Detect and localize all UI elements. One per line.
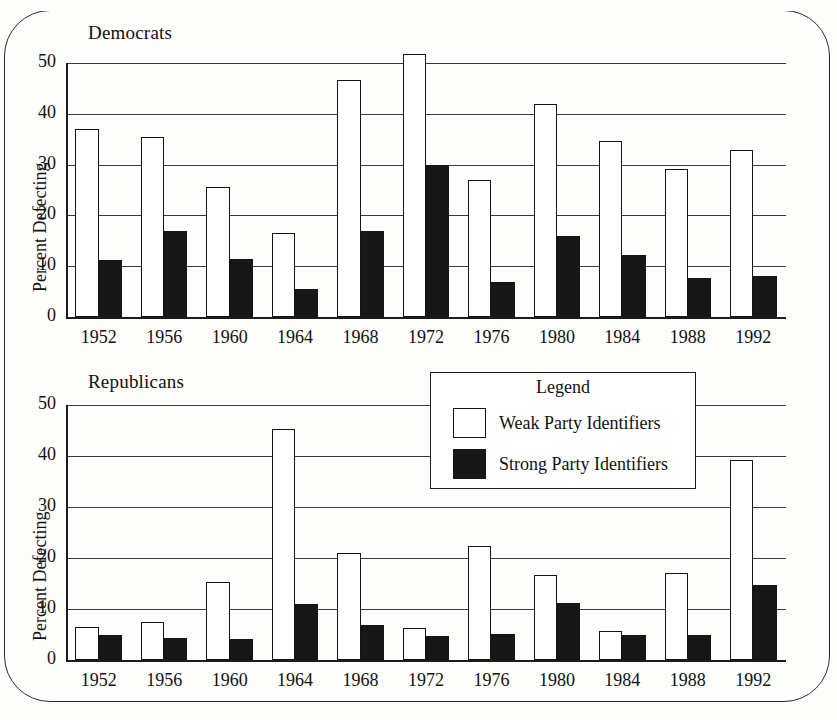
y-tick-10: 10 xyxy=(16,597,56,618)
x-tick-1980: 1980 xyxy=(524,327,589,348)
bar-strong-1972 xyxy=(426,165,449,317)
white-square-icon xyxy=(453,408,486,438)
bar-strong-1976 xyxy=(491,634,514,660)
x-tick-1964: 1964 xyxy=(262,670,327,691)
bar-strong-1964 xyxy=(295,289,318,317)
x-tick-1960: 1960 xyxy=(197,670,262,691)
scanned-page: Democrats Percent Defecting 010203040501… xyxy=(0,0,837,720)
bar-weak-1984 xyxy=(599,141,622,317)
legend-item-weak-label: Weak Party Identifiers xyxy=(499,413,661,434)
bar-strong-1956 xyxy=(164,231,187,317)
bar-weak-1964 xyxy=(272,233,295,317)
y-tick-50: 50 xyxy=(16,393,56,414)
y-tick-20: 20 xyxy=(16,203,56,224)
democrats-chart-title: Democrats xyxy=(88,22,172,44)
y-axis-line xyxy=(66,405,68,661)
bar-weak-1956 xyxy=(141,137,164,317)
bar-strong-1988 xyxy=(688,635,711,660)
bar-strong-1968 xyxy=(361,625,384,660)
bar-weak-1952 xyxy=(75,129,98,317)
y-tick-40: 40 xyxy=(16,102,56,123)
legend-item-strong: Strong Party Identifiers xyxy=(453,449,668,479)
legend-item-strong-label: Strong Party Identifiers xyxy=(499,454,668,475)
bar-strong-1992 xyxy=(753,276,776,317)
bar-weak-1992 xyxy=(730,150,753,317)
gridline-20 xyxy=(66,558,786,559)
x-tick-1956: 1956 xyxy=(131,670,196,691)
x-tick-1968: 1968 xyxy=(328,670,393,691)
x-tick-1988: 1988 xyxy=(655,327,720,348)
democrats-plot-area: 0102030405019521956196019641968197219761… xyxy=(66,63,786,317)
bar-strong-1980 xyxy=(557,603,580,660)
bar-strong-1960 xyxy=(230,639,253,660)
y-tick-0: 0 xyxy=(16,305,56,326)
y-tick-0: 0 xyxy=(16,648,56,669)
bar-strong-1952 xyxy=(99,260,122,317)
x-tick-1960: 1960 xyxy=(197,327,262,348)
gridline-30 xyxy=(66,507,786,508)
republicans-chart-title: Republicans xyxy=(88,371,184,393)
bar-strong-1960 xyxy=(230,259,253,317)
y-tick-30: 30 xyxy=(16,495,56,516)
x-tick-1980: 1980 xyxy=(524,670,589,691)
bar-weak-1988 xyxy=(665,169,688,317)
y-axis-line xyxy=(66,63,68,318)
x-tick-1972: 1972 xyxy=(393,327,458,348)
bar-weak-1976 xyxy=(468,546,491,660)
democrats-chart-panel: Democrats Percent Defecting 010203040501… xyxy=(0,0,837,355)
y-tick-40: 40 xyxy=(16,444,56,465)
bar-weak-1964 xyxy=(272,429,295,660)
bar-weak-1960 xyxy=(206,187,229,317)
bar-weak-1976 xyxy=(468,180,491,317)
x-tick-1988: 1988 xyxy=(655,670,720,691)
bar-weak-1960 xyxy=(206,582,229,660)
x-tick-1956: 1956 xyxy=(131,327,196,348)
bar-weak-1952 xyxy=(75,627,98,660)
bar-weak-1972 xyxy=(403,628,426,660)
bar-strong-1952 xyxy=(99,635,122,661)
x-tick-1984: 1984 xyxy=(590,670,655,691)
x-tick-1984: 1984 xyxy=(590,327,655,348)
bar-weak-1980 xyxy=(534,575,557,660)
republicans-y-axis-label: Percent Defecting xyxy=(30,512,51,641)
bar-weak-1956 xyxy=(141,622,164,660)
bar-weak-1992 xyxy=(730,460,753,660)
x-tick-1992: 1992 xyxy=(721,327,786,348)
bar-strong-1972 xyxy=(426,636,449,660)
bar-strong-1988 xyxy=(688,278,711,317)
gridline-40 xyxy=(66,114,786,115)
bar-weak-1968 xyxy=(337,553,360,660)
legend-item-weak: Weak Party Identifiers xyxy=(453,408,661,438)
bar-weak-1968 xyxy=(337,80,360,317)
x-axis-line xyxy=(66,660,786,662)
republicans-chart-panel: Republicans Percent Defecting 0102030405… xyxy=(0,355,837,720)
bar-weak-1988 xyxy=(665,573,688,660)
bar-strong-1976 xyxy=(491,282,514,317)
legend-title: Legend xyxy=(431,377,695,398)
bar-strong-1984 xyxy=(622,635,645,660)
x-axis-line xyxy=(66,317,786,319)
legend: Legend Weak Party Identifiers Strong Par… xyxy=(430,372,696,489)
bar-strong-1956 xyxy=(164,638,187,660)
bar-strong-1992 xyxy=(753,585,776,660)
x-tick-1976: 1976 xyxy=(459,670,524,691)
x-tick-1968: 1968 xyxy=(328,327,393,348)
bar-strong-1980 xyxy=(557,236,580,317)
gridline-50 xyxy=(66,63,786,64)
y-tick-10: 10 xyxy=(16,254,56,275)
bar-weak-1984 xyxy=(599,631,622,660)
bar-strong-1968 xyxy=(361,231,384,317)
x-tick-1992: 1992 xyxy=(721,670,786,691)
y-tick-50: 50 xyxy=(16,51,56,72)
bar-strong-1964 xyxy=(295,604,318,660)
bar-weak-1972 xyxy=(403,54,426,317)
y-tick-30: 30 xyxy=(16,153,56,174)
bar-weak-1980 xyxy=(534,104,557,317)
x-tick-1952: 1952 xyxy=(66,670,131,691)
x-tick-1952: 1952 xyxy=(66,327,131,348)
black-square-icon xyxy=(453,449,486,479)
x-tick-1976: 1976 xyxy=(459,327,524,348)
x-tick-1964: 1964 xyxy=(262,327,327,348)
x-tick-1972: 1972 xyxy=(393,670,458,691)
y-tick-20: 20 xyxy=(16,546,56,567)
